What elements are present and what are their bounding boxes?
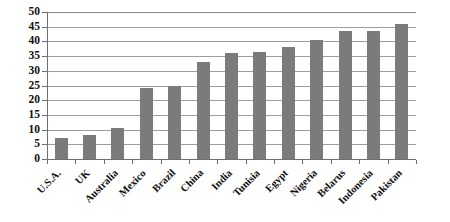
x-axis-label-tunisia: Tunisia xyxy=(232,168,263,199)
x-axis-label-china: China xyxy=(179,168,206,195)
bar-chart: 50454035302520151050 U.S.A.UKAustraliaMe… xyxy=(0,0,450,222)
x-axis-label-india: India xyxy=(210,168,234,192)
x-axis-label-brazil: Brazil xyxy=(151,168,178,195)
x-axis-label-uk: UK xyxy=(73,168,92,187)
x-axis-label-pakistan: Pakistan xyxy=(369,168,404,203)
x-axis-labels: U.S.A.UKAustraliaMexicoBrazilChinaIndiaT… xyxy=(0,0,450,222)
x-axis-label-nigeria: Nigeria xyxy=(288,168,319,199)
x-axis-label-mexico: Mexico xyxy=(118,168,149,199)
x-axis-label-u-s-a: U.S.A. xyxy=(36,168,64,196)
x-axis-label-egypt: Egypt xyxy=(264,168,290,194)
